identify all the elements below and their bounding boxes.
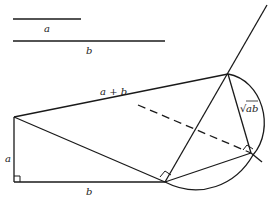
label-bottom-b: b xyxy=(86,186,92,197)
right-angle-marker-right xyxy=(243,145,253,150)
extended-line xyxy=(165,5,267,182)
diagram-canvas: a b a + b a b √ ab xyxy=(0,0,273,200)
right-angle-marker-left xyxy=(14,176,20,182)
right-angle-marker-bottom xyxy=(160,171,171,177)
diagonal-line xyxy=(14,117,165,182)
sqrt-radicand: ab xyxy=(246,103,258,114)
label-a-plus-b: a + b xyxy=(100,86,127,97)
dashed-line xyxy=(138,105,251,153)
label-left-a: a xyxy=(5,153,11,164)
semicircle-arc xyxy=(165,74,264,190)
lower-chord xyxy=(165,153,251,182)
dashed-line-extension xyxy=(251,153,262,162)
label-b-segment: b xyxy=(86,45,92,56)
label-sqrt-ab: √ ab xyxy=(240,101,258,114)
geometric-mean-construction-diagram: a b a + b a b √ ab xyxy=(0,0,273,200)
label-a-segment: a xyxy=(44,23,50,34)
